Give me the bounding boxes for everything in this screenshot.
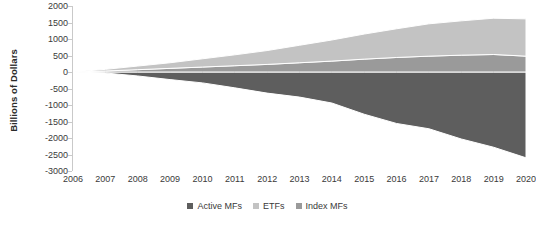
x-axis-tick-label: 2018 — [451, 174, 471, 184]
x-axis-tick-label: 2008 — [128, 174, 148, 184]
y-axis-tick-mark — [68, 105, 72, 106]
legend-item[interactable]: ETFs — [253, 201, 285, 211]
x-axis-tick-label: 2015 — [354, 174, 374, 184]
plot-wrapper: 2000150010005000-500-1000-1500-2000-2500… — [26, 6, 526, 192]
legend-swatch-icon — [253, 203, 259, 209]
x-axis-tick-label: 2019 — [484, 174, 504, 184]
plot-area — [73, 6, 526, 171]
x-axis-tick-label: 2012 — [257, 174, 277, 184]
y-axis-tick-label: -500 — [50, 84, 68, 94]
x-axis-tick-label: 2010 — [192, 174, 212, 184]
y-axis-tick-label: 2000 — [48, 1, 68, 11]
y-axis-tick-mark — [68, 23, 72, 24]
y-axis-tick-label: -1000 — [45, 100, 68, 110]
x-axis-tick-label: 2017 — [419, 174, 439, 184]
x-axis-tick-label: 2007 — [95, 174, 115, 184]
stacked-area-svg — [73, 6, 526, 171]
y-axis-tick-label: -1500 — [45, 117, 68, 127]
y-axis-tick-label: 1000 — [48, 34, 68, 44]
legend-item-label: ETFs — [263, 201, 285, 211]
y-axis-title-text: Billions of Dollars — [8, 49, 19, 132]
legend-item[interactable]: Active MFs — [187, 201, 242, 211]
y-axis-tick-mark — [68, 72, 72, 73]
legend-swatch-icon — [187, 203, 193, 209]
x-axis-tick-label: 2006 — [63, 174, 83, 184]
x-axis-tick-label: 2014 — [322, 174, 342, 184]
legend-item-label: Active MFs — [197, 201, 242, 211]
x-axis-tick-label: 2009 — [160, 174, 180, 184]
axis-area — [72, 6, 526, 171]
y-axis-tick-mark — [68, 56, 72, 57]
y-axis-tick-mark — [68, 89, 72, 90]
y-axis-tick-mark — [68, 6, 72, 7]
y-axis-tick-mark — [68, 155, 72, 156]
y-axis-tick-label: -2500 — [45, 150, 68, 160]
legend-swatch-icon — [296, 203, 302, 209]
x-axis-tick-label: 2011 — [225, 174, 244, 184]
x-axis-tick-label: 2016 — [387, 174, 407, 184]
y-axis-tick-label: 500 — [53, 51, 68, 61]
y-axis-tick-mark — [68, 122, 72, 123]
y-axis-tick-mark — [68, 138, 72, 139]
legend-item-label: Index MFs — [306, 201, 348, 211]
legend-item[interactable]: Index MFs — [296, 201, 348, 211]
area-band-active-mfs — [73, 72, 526, 158]
y-axis-tick-mark — [68, 39, 72, 40]
y-axis-tick-label: 1500 — [48, 18, 68, 28]
y-axis-title: Billions of Dollars — [0, 0, 26, 180]
x-axis-tick-labels: 2006200720082009201020112012201320142015… — [72, 172, 526, 192]
chart-legend: Active MFsETFsIndex MFs — [0, 196, 535, 216]
x-axis-tick-label: 2020 — [516, 174, 536, 184]
y-axis-tick-label: -2000 — [45, 133, 68, 143]
x-axis-tick-label: 2013 — [289, 174, 309, 184]
y-axis-tick-labels: 2000150010005000-500-1000-1500-2000-2500… — [26, 6, 72, 171]
